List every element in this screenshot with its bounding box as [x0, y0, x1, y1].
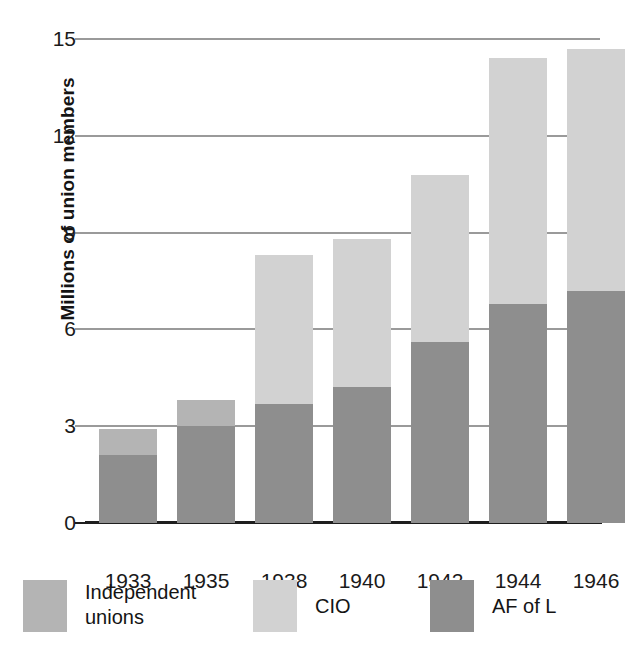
bar-segment-1946-af-of-l[interactable] [567, 291, 625, 523]
legend-label-af-of-l: AF of L [492, 580, 556, 619]
y-tick-mark-3 [75, 425, 87, 427]
bar-segment-1935-af-of-l[interactable] [177, 426, 235, 523]
bar-segment-1942-cio[interactable] [411, 175, 469, 343]
y-tick-mark-6 [75, 328, 87, 330]
legend-entry-af-of-l[interactable]: AF of L [430, 580, 556, 632]
bar-segment-1940-af-of-l[interactable] [333, 387, 391, 523]
plot-area: 036912151933193519381940194219441946 [87, 39, 600, 523]
bar-segment-1938-af-of-l[interactable] [255, 404, 313, 523]
legend-swatch-cio [253, 580, 297, 632]
legend-swatch-independent-unions [23, 580, 67, 632]
y-tick-label-15: 15 [53, 27, 76, 51]
y-tick-label-9: 9 [64, 221, 76, 245]
y-tick-label-3: 3 [64, 414, 76, 438]
bar-segment-1946-cio[interactable] [567, 49, 625, 291]
legend-label-cio: CIO [315, 580, 351, 619]
y-tick-mark-12 [75, 135, 87, 137]
bar-segment-1940-cio[interactable] [333, 239, 391, 387]
y-tick-mark-15 [75, 38, 87, 40]
gridline-15 [87, 38, 600, 40]
bar-segment-1938-cio[interactable] [255, 255, 313, 403]
bar-segment-1933-af-of-l[interactable] [99, 455, 157, 523]
bar-segment-1933-independent-unions[interactable] [99, 429, 157, 455]
legend-swatch-af-of-l [430, 580, 474, 632]
legend-entry-cio[interactable]: CIO [253, 580, 351, 632]
y-tick-label-0: 0 [64, 511, 76, 535]
y-axis-title: Millions of union members [57, 49, 79, 349]
y-tick-mark-0 [75, 522, 87, 524]
legend-entry-independent-unions[interactable]: Independent unions [23, 580, 235, 632]
chart-legend: Independent unionsCIOAF of L [0, 580, 616, 661]
y-tick-label-6: 6 [64, 317, 76, 341]
bar-segment-1935-independent-unions[interactable] [177, 400, 235, 426]
bar-segment-1942-af-of-l[interactable] [411, 342, 469, 523]
y-tick-label-12: 12 [53, 124, 76, 148]
y-tick-mark-9 [75, 232, 87, 234]
bar-segment-1944-cio[interactable] [489, 58, 547, 303]
bar-segment-1944-af-of-l[interactable] [489, 304, 547, 523]
legend-label-independent-unions: Independent unions [85, 580, 235, 630]
